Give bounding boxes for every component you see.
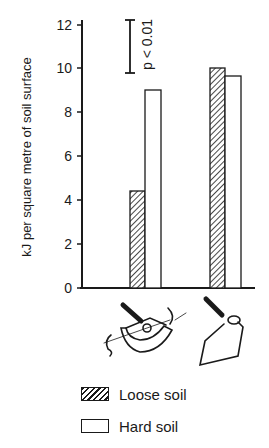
- tick-2: 2: [64, 236, 72, 252]
- legend-item-hard-soil: Hard soil: [81, 410, 187, 442]
- y-axis-label: kJ per square metre of soil surface: [19, 57, 34, 256]
- hatched-swatch-icon: [81, 387, 109, 401]
- significance-bar: [125, 20, 135, 73]
- bar-hard-soil-tool-2: [225, 76, 241, 288]
- tick-12: 12: [56, 17, 72, 33]
- open-swatch-icon: [81, 419, 109, 433]
- tick-6: 6: [64, 148, 72, 164]
- hoe-illustration: [200, 299, 243, 365]
- tick-8: 8: [64, 104, 72, 120]
- legend-item-loose-soil: Loose soil: [81, 378, 187, 410]
- bar-chart: kJ per square metre of soil surface 0 2 …: [0, 0, 269, 378]
- legend-label: Loose soil: [119, 386, 187, 403]
- y-tick-labels: 0 2 4 6 8 10 12: [56, 17, 72, 296]
- significance-label: p < 0.01: [139, 19, 155, 70]
- tick-10: 10: [56, 60, 72, 76]
- tick-4: 4: [64, 192, 72, 208]
- bar-loose-soil-tool-1: [130, 191, 145, 288]
- tick-0: 0: [64, 280, 72, 296]
- bar-hard-soil-tool-1: [145, 90, 161, 288]
- bar-loose-soil-tool-2: [210, 68, 225, 288]
- legend: Loose soil Hard soil: [81, 378, 187, 442]
- rotary-tool-illustration: [104, 305, 186, 356]
- legend-label: Hard soil: [119, 418, 178, 435]
